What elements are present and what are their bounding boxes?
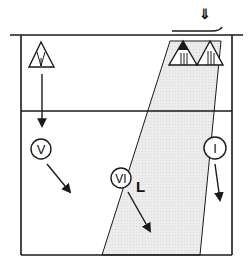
arrow-v-diagonal xyxy=(47,164,70,192)
circle-vi-label: VI xyxy=(115,172,126,186)
circle-vi-icon: VI xyxy=(111,168,131,188)
top-marker-glyph: ⇓ xyxy=(199,6,211,22)
circle-v-icon: V xyxy=(31,139,51,159)
circle-v-label: V xyxy=(37,142,46,157)
arrow-i-down xyxy=(215,164,220,200)
circle-i-label: I xyxy=(213,141,217,156)
shaded-beam-region xyxy=(102,41,221,255)
circle-i-icon: I xyxy=(204,137,226,159)
vi-side-label: L xyxy=(136,178,145,195)
triangle-iv-icon xyxy=(29,42,54,67)
double-down-arrow-icon: ⇓ xyxy=(172,6,222,31)
diagram-canvas: ⇓ V VI L I xyxy=(0,0,249,270)
